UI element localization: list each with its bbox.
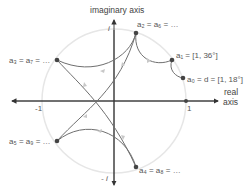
point-a0 [181, 76, 186, 81]
curve-a4-a5 [57, 129, 136, 167]
tick-pos-imag: i [108, 24, 110, 33]
real-axis-label-line1: real [224, 88, 238, 97]
point-a4 [134, 165, 139, 170]
real-axis-label-line2: axis [223, 98, 238, 107]
imaginary-axis-label: imaginary axis [90, 6, 144, 15]
point-a3 [55, 58, 60, 63]
point-a2-label: a₂ = a₆ = … [137, 20, 178, 29]
complex-plane-diagram [0, 0, 246, 187]
tick-pos-real: 1 [187, 104, 191, 113]
direction-arrow-icon [83, 82, 87, 87]
curve-a1-a2 [136, 33, 172, 63]
point-a5 [55, 139, 60, 144]
direction-arrow-icon [97, 129, 102, 133]
tick-neg-imag: - i [101, 174, 108, 183]
point-a5-label: a₅ = a₉ = … [9, 137, 51, 146]
tick-neg-real: -1 [35, 104, 42, 113]
curve-a5-a2 [57, 33, 136, 141]
direction-arrow-icon [100, 69, 105, 73]
point-a0-label: a₀ = d = [1, 18°] [187, 75, 243, 84]
point-a1 [170, 58, 175, 63]
point-a2 [134, 31, 139, 36]
point-a3-label: a₃ = a₇ = … [9, 56, 50, 65]
point-a1-label: a₁ = [1, 36°] [176, 51, 218, 60]
point-real-one [184, 99, 188, 103]
point-a4-label: a₄ = a₈ = … [139, 166, 181, 175]
curve-a3-a4 [57, 60, 136, 167]
curve-a2-a3 [57, 33, 136, 67]
